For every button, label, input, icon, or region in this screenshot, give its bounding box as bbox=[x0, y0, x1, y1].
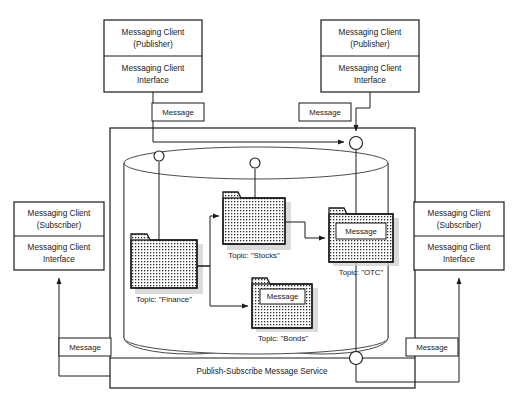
subscriber-left-title-line2: (Subscriber) bbox=[37, 221, 82, 230]
subscriber-right-title-line1: Messaging Client bbox=[428, 209, 492, 218]
message-label-subscriber-right: Message bbox=[416, 343, 448, 352]
topic-stocks-label: Topic: "Stocks" bbox=[228, 251, 280, 260]
message-label-subscriber-left: Message bbox=[69, 343, 101, 352]
publisher-right-title-line2: (Publisher) bbox=[350, 40, 390, 49]
publisher-left-title-line2: (Publisher) bbox=[133, 40, 173, 49]
message-box-subscriber-right: Message bbox=[406, 338, 458, 356]
message-label-otc: Message bbox=[345, 227, 377, 236]
topic-bonds-label: Topic: "Bonds" bbox=[258, 334, 308, 343]
port-bottom bbox=[350, 352, 363, 365]
subscriber-right-interface-line2: Interface bbox=[443, 255, 475, 264]
publisher-left-interface-line1: Messaging Client bbox=[122, 64, 186, 73]
connector-publisher-right bbox=[356, 92, 370, 131]
publisher-left-interface-line2: Interface bbox=[137, 76, 169, 85]
message-label-publisher-right: Message bbox=[309, 108, 341, 117]
diagram-canvas: Publish-Subscribe Message Service Messag… bbox=[0, 0, 514, 406]
client-subscriber-right[interactable]: Messaging Client (Subscriber) Messaging … bbox=[414, 202, 504, 270]
service-label: Publish-Subscribe Message Service bbox=[196, 367, 328, 376]
publish-subscribe-diagram: Publish-Subscribe Message Service Messag… bbox=[0, 0, 514, 406]
message-label-publisher-left: Message bbox=[162, 108, 194, 117]
message-label-bonds: Message bbox=[267, 292, 299, 301]
topic-finance-label: Topic: "Finance" bbox=[136, 295, 192, 304]
message-box-publisher-right: Message bbox=[299, 103, 351, 121]
subscriber-left-interface-line1: Messaging Client bbox=[28, 243, 92, 252]
client-publisher-left[interactable]: Messaging Client (Publisher) Messaging C… bbox=[104, 20, 202, 92]
subscriber-right-interface-line1: Messaging Client bbox=[428, 243, 492, 252]
client-subscriber-left[interactable]: Messaging Client (Subscriber) Messaging … bbox=[14, 202, 104, 270]
connector-subscriber-left bbox=[59, 278, 110, 376]
publisher-right-title-line1: Messaging Client bbox=[339, 28, 403, 37]
message-box-publisher-left: Message bbox=[152, 103, 204, 121]
publisher-right-interface-line2: Interface bbox=[354, 76, 386, 85]
topic-stocks[interactable]: Topic: "Stocks" bbox=[223, 192, 291, 260]
client-publisher-right[interactable]: Messaging Client (Publisher) Messaging C… bbox=[321, 20, 419, 92]
subscriber-left-title-line1: Messaging Client bbox=[28, 209, 92, 218]
subscriber-right-title-line2: (Subscriber) bbox=[437, 221, 482, 230]
subscriber-left-interface-line2: Interface bbox=[43, 255, 75, 264]
topic-finance[interactable]: Topic: "Finance" bbox=[131, 234, 203, 304]
publisher-left-title-line1: Messaging Client bbox=[122, 28, 186, 37]
topic-otc-label: Topic: "OTC" bbox=[339, 268, 384, 277]
publisher-right-interface-line1: Messaging Client bbox=[339, 64, 403, 73]
message-box-subscriber-left: Message bbox=[59, 338, 111, 356]
